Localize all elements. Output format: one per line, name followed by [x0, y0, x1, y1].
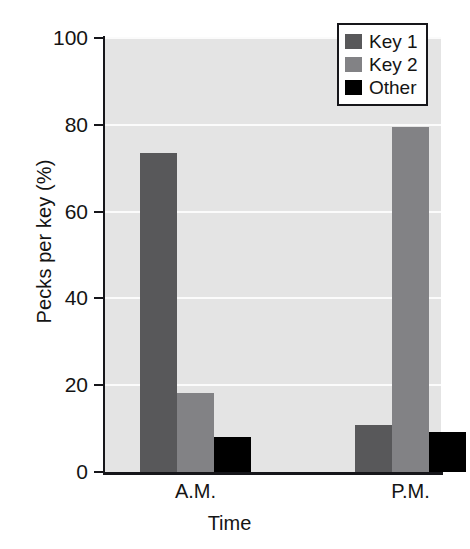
bar: [177, 393, 214, 472]
y-axis-line: [103, 36, 105, 474]
legend-swatch-icon: [345, 80, 362, 95]
y-axis-tick-label: 100: [18, 26, 88, 50]
y-axis-tick-label: 60: [18, 200, 88, 224]
y-axis-tick-label: 0: [18, 460, 88, 484]
legend: Key 1Key 2Other: [337, 23, 428, 106]
legend-item-label: Key 1: [369, 32, 418, 51]
bar: [214, 437, 251, 472]
x-axis-category-label: A.M.: [136, 480, 256, 503]
legend-swatch-icon: [345, 57, 362, 72]
y-axis-tick-label: 20: [18, 373, 88, 397]
x-axis-category-label: P.M.: [351, 480, 470, 503]
bar: [140, 153, 177, 472]
legend-item: Other: [345, 76, 418, 99]
bar: [355, 425, 392, 472]
x-axis-line: [103, 472, 443, 475]
legend-item: Key 2: [345, 53, 418, 76]
y-axis-tick-label: 80: [18, 113, 88, 137]
y-axis-tick-label: 40: [18, 286, 88, 310]
legend-swatch-icon: [345, 34, 362, 49]
y-axis-title: Pecks per key (%): [33, 102, 56, 382]
legend-item: Key 1: [345, 30, 418, 53]
bar: [392, 127, 429, 472]
legend-item-label: Other: [369, 78, 417, 97]
x-axis-title: Time: [0, 512, 459, 535]
legend-item-label: Key 2: [369, 55, 418, 74]
bar: [429, 432, 466, 472]
